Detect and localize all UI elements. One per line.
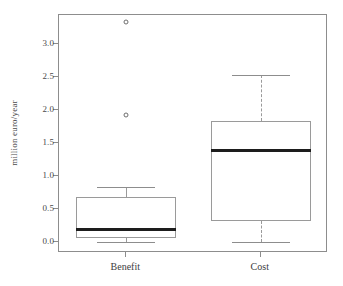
x-tick-label-benefit: Benefit bbox=[111, 261, 140, 272]
y-tick-label: 2.5 bbox=[42, 71, 54, 81]
plot-area bbox=[58, 14, 327, 252]
y-tick-label: 1.5 bbox=[42, 137, 54, 147]
y-tick-label: 3.0 bbox=[42, 38, 54, 48]
whisker-lower-cap bbox=[232, 242, 290, 243]
y-tick-label: 1.0 bbox=[42, 170, 54, 180]
x-tick-mark bbox=[260, 252, 261, 257]
y-tick-label: 0.0 bbox=[42, 236, 54, 246]
y-axis-title: million euro/year bbox=[9, 100, 19, 166]
whisker-lower-stem bbox=[261, 221, 262, 242]
median-line bbox=[211, 149, 311, 152]
x-tick-label-cost: Cost bbox=[251, 261, 269, 272]
y-tick-label: 0.5 bbox=[42, 203, 54, 213]
whisker-upper-cap bbox=[232, 75, 290, 76]
whisker-upper-stem bbox=[261, 75, 262, 121]
y-tick-label: 2.0 bbox=[42, 104, 54, 114]
boxplot-figure: million euro/year 0.00.51.01.52.02.53.0 … bbox=[0, 0, 343, 286]
x-tick-mark bbox=[125, 252, 126, 257]
box-plot-cost bbox=[59, 15, 326, 251]
box-iqr bbox=[211, 121, 311, 221]
